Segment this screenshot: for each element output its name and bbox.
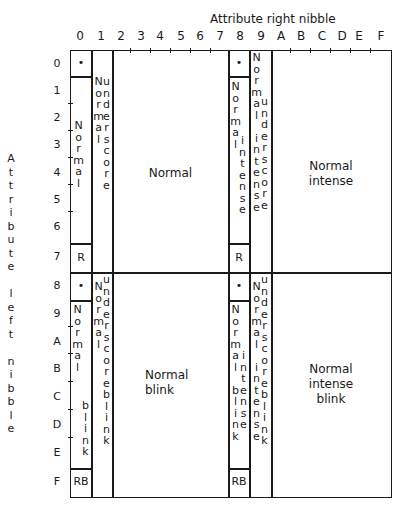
col-divider [112, 50, 114, 498]
cell-divider [228, 468, 250, 470]
row-header-B: B [50, 362, 64, 375]
cell-normal-intense-blink-b: i n t e n s e [238, 350, 249, 431]
row-header-3: 3 [50, 138, 64, 151]
cell-normal-vertical: N o r m a l [73, 120, 84, 189]
row-header-E: E [50, 446, 64, 459]
col-header-7: 7 [213, 29, 227, 43]
row-header-D: D [50, 418, 64, 431]
cell-normal-underscore-b: u n d e r s c o r e [101, 76, 112, 191]
col-header-1: 1 [94, 29, 108, 43]
col-header-0: 0 [73, 29, 87, 43]
row-header-A: A [50, 335, 64, 348]
cell-08-blank-dot: • [229, 56, 249, 69]
cell-divider [228, 76, 250, 78]
col-header-5: 5 [174, 29, 188, 43]
row-header-2: 2 [50, 111, 64, 124]
cell-divider [70, 76, 92, 78]
cell-F0-reverse-blink: RB [71, 475, 91, 488]
cell-normal-blink: Normal blink [145, 368, 215, 398]
cell-07-reverse: R [71, 251, 91, 264]
cell-divider [70, 243, 92, 245]
cell-divider [70, 468, 92, 470]
cell-divider [228, 300, 250, 302]
col-header-D: D [335, 29, 349, 43]
row-header-F: F [50, 475, 64, 488]
cell-normal-intense-blink: Normal intense blink [272, 362, 390, 407]
col-header-C: C [315, 29, 329, 43]
cell-normal: Normal [113, 166, 228, 181]
cell-normal-blink-a: N o r m a l [72, 304, 83, 373]
cell-78-reverse: R [229, 251, 249, 264]
row-header-C: C [50, 390, 64, 403]
cell-divider [70, 300, 92, 302]
row-header-6: 6 [50, 220, 64, 233]
row-header-1: 1 [50, 84, 64, 97]
row-header-4: 4 [50, 166, 64, 179]
col-header-A: A [274, 29, 288, 43]
col-divider [271, 50, 273, 498]
cell-normal-intense-underscore-blink-b: u n d e r s c o r e b l i n k [259, 274, 270, 447]
cell-normal-intense: Normal intense [272, 159, 390, 189]
cell-divider [228, 243, 250, 245]
row-header-8: 8 [50, 279, 64, 292]
cell-normal-blink-b: b l i n k [80, 400, 91, 458]
row-header-0: 0 [50, 57, 64, 70]
left-axis-label: A t t r i b u t e l e f t n i b b l e [4, 152, 18, 436]
cell-normal-intense-underscore-b: u n d e r s c o r e [259, 96, 270, 211]
cell-normal-underscore-blink-b: u n d e r s c o r e b l i n k [101, 274, 112, 447]
col-header-B: B [294, 29, 308, 43]
cell-80-blank-dot: • [71, 279, 91, 292]
col-header-E: E [352, 29, 366, 43]
col-header-4: 4 [153, 29, 167, 43]
col-header-3: 3 [134, 29, 148, 43]
col-header-8: 8 [233, 29, 247, 43]
cell-88-blank-dot: • [229, 279, 249, 292]
cell-normal-intense-b: i n t e n s e [237, 135, 248, 216]
row-divider [70, 272, 392, 274]
cell-F8-reverse-blink: RB [229, 475, 249, 488]
cell-00-blank-dot: • [71, 56, 91, 69]
row-header-9: 9 [50, 307, 64, 320]
row-header-5: 5 [50, 193, 64, 206]
col-header-9: 9 [254, 29, 268, 43]
col-header-6: 6 [193, 29, 207, 43]
row-header-7: 7 [50, 250, 64, 263]
col-header-F: F [374, 29, 388, 43]
col-header-2: 2 [114, 29, 128, 43]
diagram-title: Attribute right nibble [210, 12, 336, 26]
